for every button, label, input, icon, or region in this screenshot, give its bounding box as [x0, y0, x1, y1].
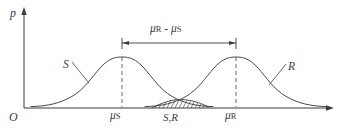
- stress-strength-figure: p O μR - μS μS μR S,R S R: [0, 0, 340, 134]
- curve-r-leader-line: [269, 64, 286, 85]
- dimension-span-group: [122, 38, 236, 49]
- curve-s-label: S: [63, 59, 69, 71]
- mu-r-subscript: R: [231, 111, 237, 121]
- mu-r-axis-label: μR: [225, 110, 236, 122]
- curve-r-label: R: [288, 61, 295, 73]
- mu-s-axis-label: μS: [110, 110, 121, 122]
- dimension-label: μR - μS: [150, 23, 182, 35]
- dimension-minus-sign: -: [161, 22, 171, 34]
- y-axis-label: p: [10, 7, 16, 19]
- dimension-right-arrowhead: [229, 41, 236, 45]
- dimension-left-arrowhead: [123, 41, 130, 45]
- origin-label: O: [9, 111, 18, 123]
- curve-s-leader-line: [72, 62, 89, 83]
- mu-s-subscript: S: [116, 111, 121, 121]
- dimension-mu-s-subscript: S: [177, 24, 182, 34]
- x-axis-arrowhead: [326, 105, 334, 110]
- overlap-region-label: S,R: [163, 112, 178, 123]
- y-axis-arrowhead: [21, 7, 26, 15]
